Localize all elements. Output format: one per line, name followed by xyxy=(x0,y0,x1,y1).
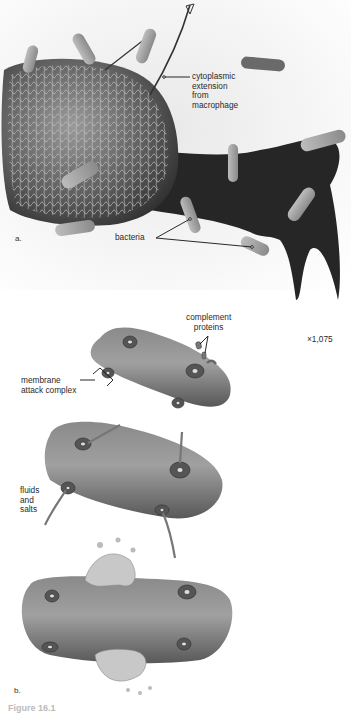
bacterium-2 xyxy=(45,422,223,558)
figure-caption-partial: Figure 16.1 xyxy=(8,703,56,713)
bacterium-1 xyxy=(80,327,231,408)
label-membrane-attack-complex: membrane attack complex xyxy=(21,376,76,395)
magnification-label: ×1,075 xyxy=(307,335,333,345)
label-line: macrophage xyxy=(192,101,238,111)
label-line: salts xyxy=(20,505,39,515)
bacterium-3 xyxy=(22,538,233,696)
label-fluids-and-salts: fluids and salts xyxy=(20,486,39,515)
label-line: proteins xyxy=(186,323,231,333)
label-complement-proteins: complement proteins xyxy=(186,313,231,332)
label-line: attack complex xyxy=(21,386,76,396)
panel-b-letter: b. xyxy=(14,686,21,695)
label-bacteria: bacteria xyxy=(115,233,145,243)
lysis-bottom xyxy=(95,649,146,681)
panel-a-letter: a. xyxy=(15,234,22,243)
label-cytoplasmic-extension: cytoplasmic extension from macrophage xyxy=(192,72,238,110)
lysis-top xyxy=(85,554,135,586)
